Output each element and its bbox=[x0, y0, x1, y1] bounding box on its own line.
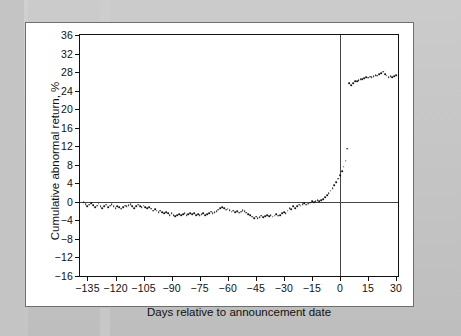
y-tick-label: 16 bbox=[61, 122, 73, 134]
x-axis-title: Days relative to announcement date bbox=[79, 306, 399, 318]
x-tick bbox=[312, 276, 313, 281]
y-tick-label: 28 bbox=[61, 66, 73, 78]
announcement-date-line bbox=[340, 35, 341, 276]
data-point bbox=[350, 84, 352, 86]
x-tick-label: −45 bbox=[247, 282, 265, 294]
x-tick-label: −60 bbox=[219, 282, 237, 294]
data-point bbox=[326, 195, 328, 197]
x-tick bbox=[368, 276, 369, 281]
data-point bbox=[330, 190, 332, 192]
y-tick-label: 4 bbox=[67, 177, 73, 189]
data-point bbox=[334, 184, 336, 186]
x-tick-label: −105 bbox=[131, 282, 155, 294]
data-point bbox=[337, 178, 339, 180]
data-point bbox=[94, 207, 96, 209]
y-tick-label: 8 bbox=[67, 159, 73, 171]
y-tick bbox=[75, 276, 80, 277]
plot-area: −16−12−8−404812162024283236 −135−120−105… bbox=[79, 34, 399, 277]
y-tick bbox=[75, 165, 80, 166]
y-tick-label: −16 bbox=[55, 270, 73, 282]
top-gutter-strip bbox=[100, 0, 110, 22]
y-tick-label: 0 bbox=[67, 196, 73, 208]
y-tick bbox=[75, 220, 80, 221]
data-point bbox=[287, 210, 289, 212]
x-tick-label: −75 bbox=[190, 282, 208, 294]
y-tick bbox=[75, 128, 80, 129]
x-tick-label: −120 bbox=[103, 282, 127, 294]
x-tick bbox=[284, 276, 285, 281]
y-tick bbox=[75, 183, 80, 184]
data-point bbox=[102, 207, 104, 209]
zero-reference-line bbox=[80, 202, 398, 203]
data-point bbox=[324, 196, 326, 198]
x-tick bbox=[116, 276, 117, 281]
data-point bbox=[328, 192, 330, 194]
x-tick-label: −90 bbox=[162, 282, 180, 294]
x-tick-label: −30 bbox=[275, 282, 293, 294]
y-tick-label: 36 bbox=[61, 29, 73, 41]
y-tick bbox=[75, 91, 80, 92]
y-tick bbox=[75, 54, 80, 55]
data-point bbox=[291, 208, 293, 210]
y-tick bbox=[75, 109, 80, 110]
x-tick bbox=[228, 276, 229, 281]
y-tick-label: −8 bbox=[61, 233, 73, 245]
x-tick bbox=[87, 276, 88, 281]
data-point bbox=[395, 74, 397, 76]
x-tick bbox=[256, 276, 257, 281]
x-tick bbox=[340, 276, 341, 281]
y-tick bbox=[75, 72, 80, 73]
y-tick bbox=[75, 239, 80, 240]
data-point bbox=[339, 175, 341, 177]
y-axis-title: Cumulative abnormal return, % bbox=[49, 46, 61, 276]
left-margin-band bbox=[0, 0, 24, 336]
y-tick bbox=[75, 257, 80, 258]
x-tick bbox=[172, 276, 173, 281]
data-point bbox=[345, 160, 347, 162]
x-tick-label: −15 bbox=[303, 282, 321, 294]
x-tick-label: 30 bbox=[390, 282, 402, 294]
data-point bbox=[120, 208, 122, 210]
data-point bbox=[343, 166, 345, 168]
y-tick-label: 32 bbox=[61, 48, 73, 60]
data-point bbox=[285, 213, 287, 215]
y-tick-label: −4 bbox=[61, 214, 73, 226]
y-tick-label: 24 bbox=[61, 85, 73, 97]
data-point bbox=[335, 181, 337, 183]
data-point bbox=[322, 198, 324, 200]
y-tick-label: 12 bbox=[61, 140, 73, 152]
data-point bbox=[141, 207, 143, 209]
data-point bbox=[103, 206, 105, 208]
y-axis-title-container: Cumulative abnormal return, % bbox=[32, 23, 56, 308]
x-tick-label: −135 bbox=[75, 282, 99, 294]
x-tick bbox=[396, 276, 397, 281]
data-point bbox=[332, 187, 334, 189]
figure-card: Cumulative abnormal return, % −16−12−8−4… bbox=[25, 22, 414, 307]
data-point bbox=[115, 207, 117, 209]
y-tick-label: −12 bbox=[55, 251, 73, 263]
x-tick-label: 0 bbox=[337, 282, 343, 294]
y-tick bbox=[75, 202, 80, 203]
data-point bbox=[347, 148, 349, 150]
data-point bbox=[294, 207, 296, 209]
x-tick-label: 15 bbox=[362, 282, 374, 294]
y-tick bbox=[75, 146, 80, 147]
y-tick bbox=[75, 35, 80, 36]
data-point bbox=[135, 206, 137, 208]
data-point bbox=[341, 170, 343, 172]
data-point bbox=[96, 205, 98, 207]
y-tick-label: 20 bbox=[61, 103, 73, 115]
x-tick bbox=[144, 276, 145, 281]
x-tick bbox=[200, 276, 201, 281]
data-point bbox=[352, 82, 354, 84]
